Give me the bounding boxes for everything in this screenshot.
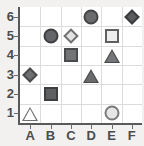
y-axis-tick <box>14 55 19 56</box>
data-point-circle <box>43 29 58 44</box>
y-axis-tick-label: 2 <box>2 87 14 100</box>
y-axis-tick <box>14 94 19 95</box>
data-point-triangle <box>104 49 120 63</box>
y-axis-tick <box>14 75 19 76</box>
triangle-fill <box>24 109 36 120</box>
x-axis-tick-label: D <box>82 129 100 143</box>
x-axis-tick-label: A <box>21 129 39 143</box>
x-axis-tick-label: E <box>103 129 121 143</box>
data-point-triangle <box>83 69 99 83</box>
y-axis-tick-label: 5 <box>2 29 14 42</box>
data-point-circle <box>104 106 119 121</box>
x-axis-tick-label: C <box>62 129 80 143</box>
triangle-fill <box>106 51 118 62</box>
x-axis-tick-label: F <box>123 129 141 143</box>
data-point-triangle <box>22 107 38 121</box>
gridline-horizontal <box>20 65 142 66</box>
data-point-square <box>105 29 119 43</box>
gridline-horizontal <box>20 46 142 47</box>
data-point-square <box>44 87 58 101</box>
gridline-horizontal <box>20 104 142 105</box>
data-point-square <box>64 48 78 62</box>
gridline-horizontal <box>20 84 142 85</box>
scatter-plot-figure: 123456 ABCDEF <box>0 0 144 146</box>
gridline-horizontal <box>20 26 142 27</box>
y-axis-tick-label: 3 <box>2 68 14 81</box>
triangle-fill <box>85 71 97 82</box>
x-axis-line <box>18 123 142 125</box>
y-axis-tick <box>14 17 19 18</box>
y-axis-tick <box>14 36 19 37</box>
y-axis-tick <box>14 113 19 114</box>
x-axis-tick-label: B <box>42 129 60 143</box>
y-axis-tick-label: 1 <box>2 106 14 119</box>
data-point-circle <box>84 9 99 24</box>
y-axis-tick-label: 6 <box>2 10 14 23</box>
y-axis-tick-label: 4 <box>2 48 14 61</box>
